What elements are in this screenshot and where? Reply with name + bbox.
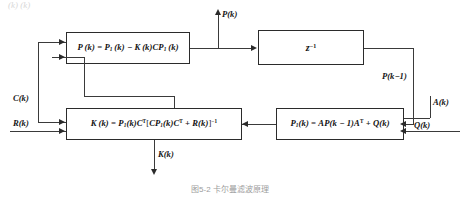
label-delay-output: P(k−1) [382,72,407,81]
unit-delay-block: z−1 [258,30,364,65]
arrow-into-p1-right [400,121,406,127]
arrow-into-p-first [59,39,65,45]
posterior-covariance-formula: P (k) = P1 (k) − K (k)CP1 (k) [77,43,178,53]
label-input-r: R(k) [13,119,29,128]
kalman-gain-formula: K (k) = P1(k)CT[CP1(k)CT + R(k)]−1 [91,119,217,129]
wire-k-output [154,140,155,170]
figure-canvas: (k) (k) P (k) = P1 (k) − K (k)CP1 (k) z−… [0,0,460,197]
unit-delay-formula: z−1 [306,43,317,53]
kalman-gain-block: K (k) = P1(k)CT[CP1(k)CT + R(k)]−1 [66,108,242,140]
cropped-top-text: (k) (k) [8,0,30,10]
prior-covariance-block: P1(k) = AP(k − 1)AT + Q(k) [276,108,404,140]
wire-delay-out-horizontal [364,48,414,49]
arrow-into-k-second [59,128,65,134]
arrow-input-q [400,128,406,134]
label-input-c: C(k) [13,94,29,103]
label-p-output: P(k) [222,10,237,19]
prior-covariance-formula: P1(k) = AP(k − 1)AT + Q(k) [290,119,389,129]
wire-delay-out-vertical [413,48,414,124]
wire-p-to-delay [190,48,252,49]
wire-input-c-spine [38,42,39,122]
wire-k-feedback-up [174,96,175,108]
label-input-a: A(k) [433,98,449,107]
label-k-output: K(k) [158,150,174,159]
wire-input-q [404,131,460,132]
arrow-into-k-right [242,121,248,127]
wire-input-a [430,96,431,118]
label-input-q: Q(k) [414,121,430,130]
wire-p-output [218,14,219,48]
wire-k-feedback-left [84,96,174,97]
arrow-into-delay [251,45,257,51]
wire-input-a-horizontal [404,118,430,119]
arrow-into-k-first [59,119,65,125]
arrow-into-p-second [59,54,65,60]
arrow-p-output [215,9,221,15]
wire-k-feedback-up2 [84,57,85,96]
arrow-k-output [151,169,157,175]
figure-caption: 图5-2 卡尔曼滤波原理 [0,183,460,194]
wire-input-r [10,131,66,132]
